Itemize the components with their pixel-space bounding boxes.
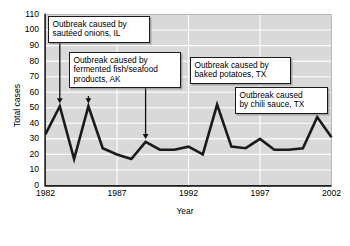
y-tick-label: 80 [17,56,39,66]
y-tick-label: 100 [17,24,39,34]
x-tick-label: 2002 [310,188,350,198]
x-tick-label: 1992 [167,188,211,198]
y-tick-label: 60 [17,87,39,97]
annotation-sauteed-onions: Outbreak caused by sautéed onions, IL [48,16,150,43]
annotation-line: by chili sauce, TX [240,100,324,110]
y-tick-label: 70 [17,71,39,81]
x-axis-title: Year [177,206,194,216]
y-tick-label: 110 [17,9,39,19]
y-tick-label: 20 [17,149,39,159]
y-tick-label: 30 [17,133,39,143]
y-tick-label: 50 [17,102,39,112]
x-tick-label: 1982 [24,188,68,198]
y-tick-label: 10 [17,164,39,174]
annotation-chili-sauce: Outbreak caused by chili sauce, TX [235,87,328,114]
annotation-line: products, AK [74,75,177,85]
annotation-line: baked potatoes, TX [195,70,287,80]
x-tick-label: 1987 [95,188,139,198]
annotation-line: sautéed onions, IL [53,29,146,39]
chart-figure: Total cases Year 11010090807060504030201… [0,0,350,246]
y-tick-label: 40 [17,118,39,128]
annotation-baked-potatoes: Outbreak caused by baked potatoes, TX [190,57,291,84]
annotation-fermented-fish: Outbreak caused by fermented fish/seafoo… [69,52,181,88]
y-tick-label: 90 [17,40,39,50]
x-tick-label: 1997 [238,188,282,198]
